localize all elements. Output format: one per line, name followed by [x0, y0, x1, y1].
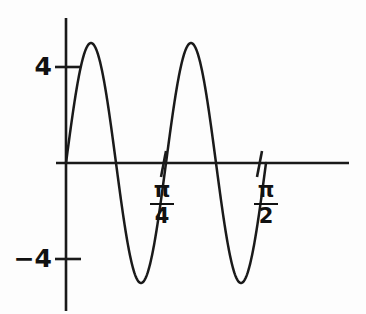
pi-over-2-denominator: 2	[254, 205, 278, 228]
x-axis-tick-label-pi-over-2: π 2	[254, 180, 278, 228]
pi-over-4-numerator: π	[150, 180, 174, 203]
plot-area	[0, 0, 366, 314]
pi-over-4-denominator: 4	[150, 205, 174, 228]
y-axis-tick-label-negative-4: −4	[2, 246, 52, 271]
sine-wave-chart: 4 −4 π 4 π 2	[0, 0, 366, 314]
x-axis-tick-label-pi-over-4: π 4	[150, 180, 174, 228]
y-axis-tick-label-4: 4	[8, 54, 52, 79]
pi-over-2-numerator: π	[254, 180, 278, 203]
